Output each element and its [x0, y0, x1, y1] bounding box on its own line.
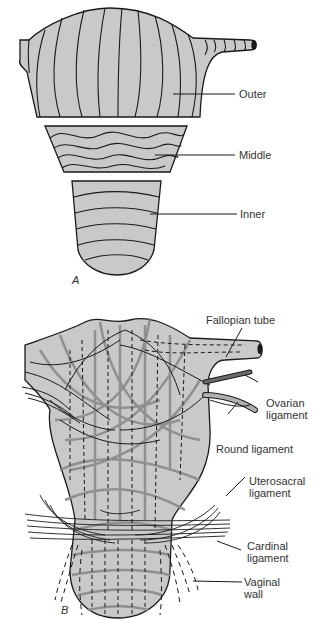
label-uterosacral-ligament: Uterosacral ligament [249, 475, 305, 499]
label-inner: Inner [240, 208, 265, 220]
label-round-ligament: Round ligament [216, 443, 293, 455]
label-ovarian-ligament: Ovarian ligament [266, 397, 308, 421]
label-outer: Outer [239, 88, 267, 100]
label-cardinal-ligament: Cardinal ligament [247, 540, 289, 564]
label-vaginal-line2: wall [244, 588, 280, 600]
label-middle: Middle [239, 149, 271, 161]
label-ovarian-line2: ligament [266, 409, 308, 421]
outer-layer [20, 8, 256, 117]
panel-label-b: B [61, 604, 68, 616]
inner-layer [72, 181, 161, 275]
label-uterosacral-line1: Uterosacral [249, 475, 305, 487]
label-vaginal-line1: Vaginal [244, 576, 280, 588]
uterus-b [22, 318, 263, 618]
label-vaginal-wall: Vaginal wall [244, 576, 280, 600]
label-uterosacral-line2: ligament [249, 487, 305, 499]
middle-layer [45, 126, 187, 172]
panel-label-a: A [72, 274, 79, 286]
label-cardinal-line1: Cardinal [247, 540, 289, 552]
label-cardinal-line2: ligament [247, 552, 289, 564]
label-ovarian-line1: Ovarian [266, 397, 308, 409]
label-fallopian-tube: Fallopian tube [206, 314, 275, 326]
